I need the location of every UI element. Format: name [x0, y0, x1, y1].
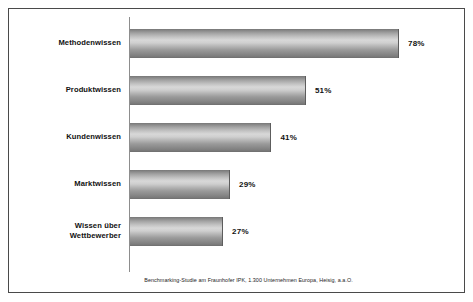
bar-value-produktwissen: 51% [315, 86, 332, 95]
category-label-methodenwissen: Methodenwissen [9, 38, 121, 48]
bar-row: Marktwissen 29% [9, 164, 464, 204]
bar-row: Produktwissen 51% [9, 70, 464, 110]
bar-value-wissen-ueber-wettbewerber: 27% [232, 227, 249, 236]
bar-row: Methodenwissen 78% [9, 23, 464, 63]
bar-track: 41% [130, 117, 297, 157]
bar-track: 29% [130, 164, 256, 204]
category-label-line: Wissen über [75, 221, 121, 230]
plot-area: Methodenwissen 78% Produktwissen 51% Kun… [9, 9, 464, 292]
category-label-marktwissen: Marktwissen [9, 179, 121, 189]
category-label-line: Produktwissen [66, 85, 121, 94]
bar-value-kundenwissen: 41% [280, 133, 297, 142]
category-label-wissen-ueber-wettbewerber: Wissen über Wettbewerber [9, 221, 121, 240]
category-label-line: Methodenwissen [58, 38, 121, 47]
bar-track: 27% [130, 211, 249, 251]
bar-produktwissen[interactable] [130, 76, 306, 105]
bar-value-methodenwissen: 78% [408, 39, 425, 48]
bar-kundenwissen[interactable] [130, 123, 271, 152]
bar-methodenwissen[interactable] [130, 29, 399, 58]
category-label-kundenwissen: Kundenwissen [9, 132, 121, 142]
bar-track: 78% [130, 23, 425, 63]
category-label-produktwissen: Produktwissen [9, 85, 121, 95]
category-label-line: Marktwissen [74, 179, 121, 188]
bar-row: Wissen über Wettbewerber 27% [9, 211, 464, 251]
chart-source-caption: Benchmarking-Studie am Fraunhofer IPK, 1… [9, 277, 464, 283]
category-label-line: Kundenwissen [66, 132, 121, 141]
bar-value-marktwissen: 29% [239, 180, 256, 189]
bar-track: 51% [130, 70, 332, 110]
category-label-line: Wettbewerber [70, 231, 121, 240]
bar-wissen-ueber-wettbewerber[interactable] [130, 217, 223, 246]
bar-marktwissen[interactable] [130, 170, 230, 199]
bar-row: Kundenwissen 41% [9, 117, 464, 157]
chart-frame: Methodenwissen 78% Produktwissen 51% Kun… [8, 8, 465, 293]
